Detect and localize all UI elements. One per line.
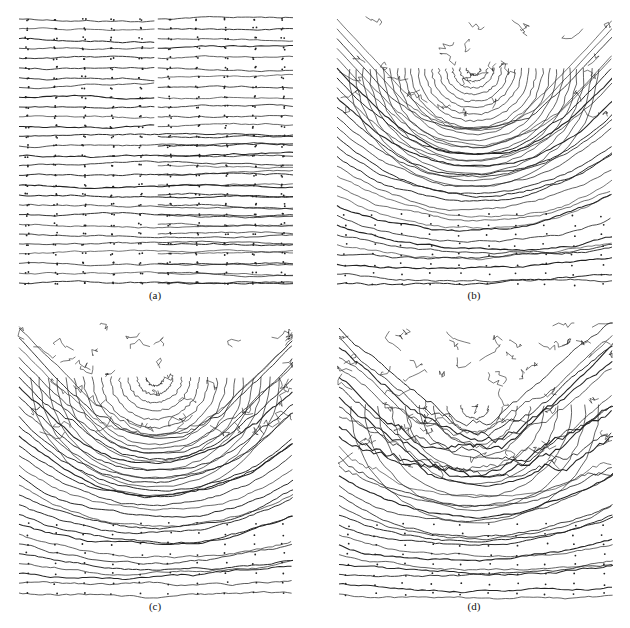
- caption-b: (b): [444, 289, 504, 301]
- panel-d: [337, 322, 613, 600]
- panel-b: [335, 13, 612, 290]
- caption-a: (a): [125, 289, 185, 301]
- streamline-plot-b: [335, 13, 612, 290]
- streamline-plot-c: [17, 322, 293, 599]
- caption-d: (d): [444, 600, 504, 612]
- caption-c: (c): [125, 600, 185, 612]
- panel-a: [17, 13, 293, 289]
- panel-c: [17, 322, 293, 599]
- streamline-plot-a: [17, 13, 293, 289]
- streamline-plot-d: [337, 322, 613, 600]
